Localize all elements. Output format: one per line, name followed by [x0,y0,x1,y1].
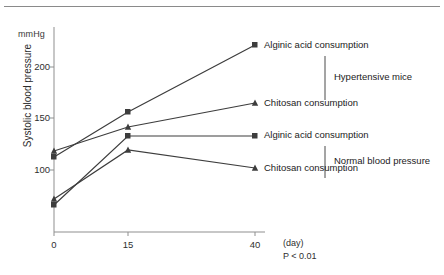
plot-area [0,0,444,275]
series-label-hypertensive-alginic: Alginic acid consumption [264,39,369,50]
marker-normal-alginic-d15 [125,133,131,139]
marker-normal-chitosan-d0 [51,196,57,202]
series-label-hypertensive-chitosan: Chitosan consumption [264,97,358,108]
group-label-hypertensive: Hypertensive mice [334,71,412,82]
marker-normal-alginic-d0 [51,202,57,208]
marker-normal-chitosan-d15 [125,147,131,153]
series-line-hypertensive-alginic [54,45,255,157]
marker-hyper-alginic-d0 [51,154,57,160]
marker-normal-alginic-d40 [252,133,258,139]
marker-hyper-chitosan-d40 [252,100,258,106]
series-line-normal-chitosan [54,150,255,199]
series-line-normal-alginic [54,136,255,205]
marker-hyper-alginic-d15 [125,109,131,115]
series-label-normal-alginic: Alginic acid consumption [264,129,369,140]
chart-figure: mmHg Systolic blood pressure 200 150 100… [0,0,444,275]
series-line-hypertensive-chitosan [54,103,255,151]
marker-hyper-alginic-d40 [252,42,258,48]
series-label-normal-chitosan: Chitosan consumption [264,162,358,173]
